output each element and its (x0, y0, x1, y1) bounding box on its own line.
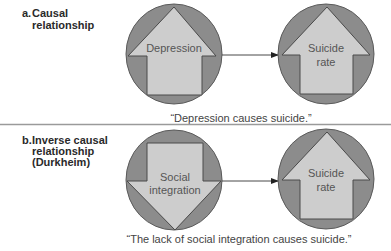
effect-label-line-1: Suicide (308, 42, 344, 54)
panel-b-cause-node: Social integration (126, 130, 222, 230)
panel-b-letter: b. (22, 134, 32, 146)
panel-a-title-line-1: Causal (32, 7, 68, 19)
panel-a-causal-relationship: a. Causal relationship Depression Suicid… (22, 4, 374, 124)
panel-a-letter: a. (22, 7, 31, 19)
panel-a-effect-node: Suicide rate (278, 4, 374, 104)
cause-label-line-2: integration (149, 184, 200, 196)
panel-b-title-line-3: (Durkheim) (32, 156, 90, 168)
panel-b-effect-node: Suicide rate (278, 129, 374, 229)
causal-relationship-diagram: a. Causal relationship Depression Suicid… (0, 0, 391, 251)
effect-label-line-2: rate (317, 181, 336, 193)
effect-label-line-2: rate (317, 56, 336, 68)
effect-label-line-1: Suicide (308, 167, 344, 179)
panel-a-caption: “Depression causes suicide.” (170, 112, 312, 124)
cause-label-line-1: Social (160, 171, 190, 183)
panel-a-cause-node: Depression (126, 4, 222, 104)
panel-a-title-line-2: relationship (32, 19, 95, 31)
panel-b-inverse-causal-relationship: b. Inverse causal relationship (Durkheim… (22, 129, 374, 245)
panel-b-caption: “The lack of social integration causes s… (127, 233, 352, 245)
cause-label: Depression (146, 42, 202, 54)
